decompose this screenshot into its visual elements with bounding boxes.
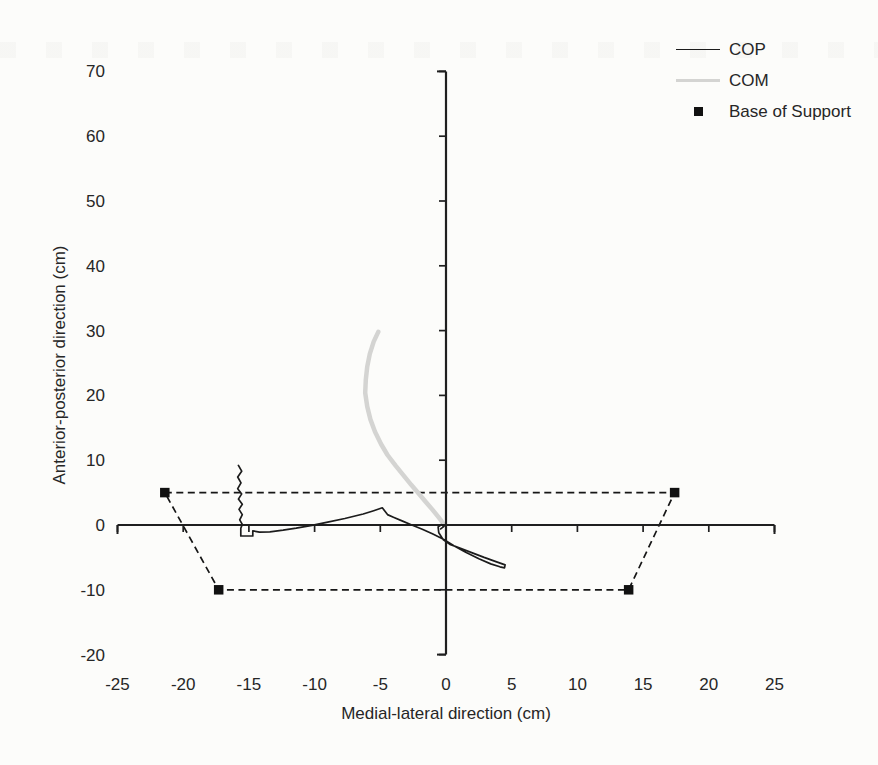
com-line-swatch: [676, 79, 720, 82]
base-of-support-marker: [160, 488, 170, 498]
x-tick-label: -5: [373, 675, 388, 694]
figure-page: -25-20-15-10-50510152025-20-100102030405…: [0, 0, 878, 765]
y-tick-label: 50: [86, 192, 105, 211]
x-tick-label: 20: [699, 675, 718, 694]
x-tick-label: 25: [765, 675, 784, 694]
base-of-support-marker: [670, 488, 680, 498]
legend-item-base-of-support: Base of Support: [658, 96, 851, 127]
legend-item-cop: COP: [658, 34, 851, 65]
base-of-support-marker: [214, 585, 224, 595]
legend-label-cop: COP: [729, 40, 766, 60]
y-tick-label: 30: [86, 322, 105, 341]
base-of-support-marker: [624, 585, 634, 595]
y-axis-title: Anterior-posterior direction (cm): [50, 245, 70, 484]
x-tick-label: 15: [634, 675, 653, 694]
y-tick-label: 20: [86, 386, 105, 405]
x-tick-label: -15: [237, 675, 262, 694]
square-marker-swatch: [676, 107, 720, 116]
x-axis-title: Medial-lateral direction (cm): [14, 704, 878, 724]
legend-label-com: COM: [729, 71, 769, 91]
legend: COP COM Base of Support: [658, 34, 851, 127]
y-tick-label: 40: [86, 257, 105, 276]
x-tick-label: 5: [507, 675, 516, 694]
x-tick-label: -25: [105, 675, 130, 694]
cop-line-swatch: [676, 49, 720, 50]
x-tick-label: -20: [171, 675, 196, 694]
x-tick-label: -10: [302, 675, 327, 694]
legend-item-com: COM: [658, 65, 851, 96]
legend-label-base-of-support: Base of Support: [729, 102, 851, 122]
y-tick-label: -10: [80, 581, 105, 600]
com-trace: [365, 332, 443, 525]
x-tick-label: 0: [441, 675, 450, 694]
y-tick-label: 0: [96, 516, 105, 535]
cop-trace: [238, 465, 505, 567]
y-tick-label: 60: [86, 127, 105, 146]
x-tick-label: 10: [568, 675, 587, 694]
y-tick-label: 10: [86, 451, 105, 470]
y-tick-label: 70: [86, 62, 105, 81]
y-tick-label: -20: [80, 646, 105, 665]
